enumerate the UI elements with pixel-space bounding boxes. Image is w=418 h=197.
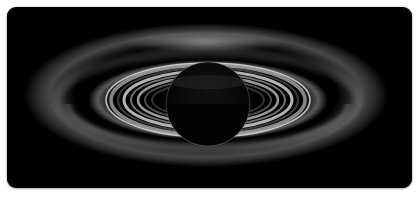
saturn-illustration (7, 7, 412, 188)
image-frame (7, 7, 412, 188)
